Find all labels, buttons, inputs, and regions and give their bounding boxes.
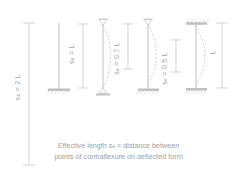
label-symbol: s — [113, 71, 120, 75]
overall-length-dimension — [216, 23, 228, 88]
caption-text-b: = distance between — [115, 141, 179, 150]
fixed-base-symbol — [186, 88, 207, 91]
label-subscript: e — [162, 78, 168, 81]
label-se-L: se = L — [68, 44, 75, 64]
column-pinned-fixed — [123, 19, 159, 94]
column-pinned-pinned — [78, 19, 111, 96]
label-se-2L: se = 2 L — [14, 74, 21, 100]
base-hatching — [185, 91, 207, 94]
label-value: = 0.5 L — [161, 52, 168, 78]
top-hatching — [187, 20, 209, 23]
label-subscript: e — [114, 68, 120, 71]
label-subscript: e — [69, 57, 75, 60]
deflected-form-curve — [196, 25, 205, 88]
caption-line-1: Effective length se = distance between — [0, 141, 237, 152]
column-fixed-fixed — [171, 20, 209, 94]
label-se-07L: se = 0.7 L — [113, 42, 120, 75]
effective-length-diagram: se = 2 L se = L se = 0.7 L se = 0.5 L L … — [0, 0, 237, 189]
deflected-form-curve — [103, 24, 111, 88]
pin-base-ground — [96, 93, 110, 95]
label-symbol: s — [14, 97, 21, 101]
base-hatching — [137, 91, 159, 94]
label-se-05L: se = 0.5 L — [161, 52, 168, 85]
base-hatching — [47, 91, 70, 94]
label-subscript: e — [15, 94, 21, 97]
label-symbol: s — [161, 81, 168, 85]
label-value: = 0.7 L — [113, 42, 120, 68]
fixed-top-symbol — [186, 22, 207, 25]
caption-text-a: Effective length s — [58, 141, 113, 150]
fixed-base-symbol — [138, 89, 159, 92]
caption-line-2: points of contraflexure on deflected for… — [0, 152, 237, 162]
label-symbol: s — [68, 60, 75, 64]
label-overall-L: L — [209, 50, 216, 54]
label-value: = L — [68, 44, 75, 57]
diagram-caption: Effective length se = distance between p… — [0, 141, 237, 161]
fixed-base-symbol — [48, 89, 70, 92]
pin-base-symbol — [99, 88, 107, 93]
label-value: = 2 L — [14, 74, 21, 94]
deflected-form-curve — [148, 24, 156, 89]
